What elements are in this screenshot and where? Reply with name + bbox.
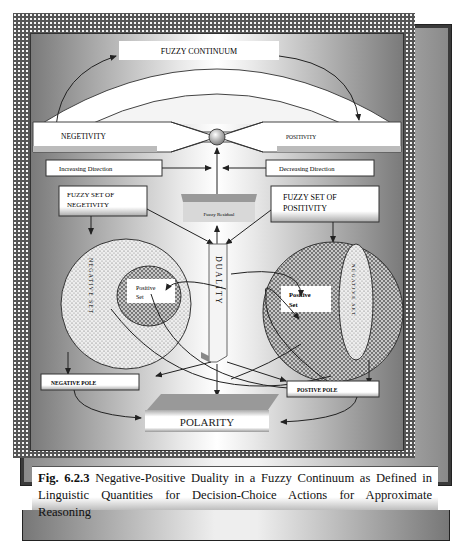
negative-pole-box: NEGATIVE POLE [41,374,141,418]
positive-pole-box: POSTIVE POLE [281,381,379,422]
positive-set-circle: Positive Set NEGATIVE SET [263,242,403,382]
fuzzy-continuum-arc: FUZZY CONTINUUM [41,41,393,126]
right-positive-set-line1: Positive [289,291,311,298]
increasing-direction-label: Increasing Direction [59,165,113,172]
left-positive-set-line2: Set [136,294,144,300]
continuum-bar: NEGETIVITY POSITIVITY [33,122,401,152]
right-negative-set-label: NEGATIVE SET [351,264,356,317]
fuzzy-set-negativity-line1: FUZZY SET OF [67,191,114,199]
fuzzy-continuum-label: FUZZY CONTINUUM [161,47,237,56]
fuzzy-residual-label: Fuzzy Residual [204,212,236,217]
polarity-label: POLARITY [180,416,234,428]
positivity-label: POSITIVITY [286,134,316,140]
polarity-block: POLARITY [145,394,279,432]
diagram-panel: FUZZY CONTINUUM NEGETIVITY POSITIVITY In… [30,33,404,451]
fuzzy-set-negativity-line2: NEGETIVITY [67,201,109,209]
center-ball [209,129,225,145]
positive-pole-label: POSTIVE POLE [297,387,338,393]
left-positive-set-line1: Positive [136,285,156,291]
left-negative-set-label: NEGATIVE SET [88,258,94,314]
figure-number: Fig. 6.2.3 [38,471,89,485]
fuzzy-set-positivity-line2: POSITIVITY [283,204,327,213]
decreasing-direction-label: Decreasing Direction [279,165,335,172]
duality-label: DUALITY [214,256,223,306]
figure-caption: Fig. 6.2.3 Negative-Positive Duality in … [32,466,438,510]
fuzzy-set-positivity-line1: FUZZY SET OF [283,193,337,202]
duality-diagram: FUZZY CONTINUUM NEGETIVITY POSITIVITY In… [31,34,403,450]
negative-pole-label: NEGATIVE POLE [51,380,97,386]
duality-column: DUALITY [201,244,227,362]
right-positive-set-line2: Set [289,301,299,308]
negative-set-circle: Positive Set NEGATIVE SET [61,239,191,369]
negativity-label: NEGETIVITY [61,132,107,141]
